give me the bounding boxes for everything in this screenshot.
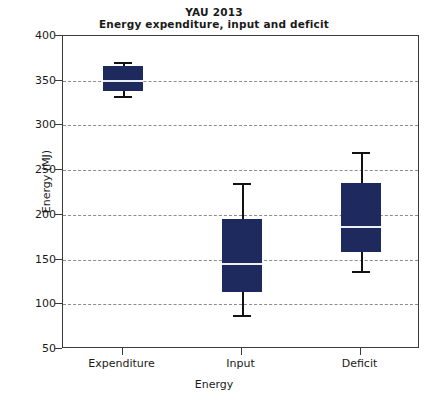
- x-tick-mark: [122, 348, 123, 355]
- y-tick-label: 150: [10, 252, 56, 265]
- y-tick-label: 250: [10, 163, 56, 176]
- y-tick-mark: [55, 259, 62, 260]
- y-tick-mark: [55, 169, 62, 170]
- x-tick-label-expenditure: Expenditure: [62, 357, 182, 370]
- y-tick-mark: [55, 80, 62, 81]
- whisker-cap-upper: [233, 183, 251, 185]
- x-tick-mark: [360, 348, 361, 355]
- chart-subtitle: Energy expenditure, input and deficit: [0, 18, 428, 30]
- boxplot-figure: YAU 2013 Energy expenditure, input and d…: [0, 0, 428, 402]
- y-tick-label: 400: [10, 29, 56, 42]
- y-tick-label: 200: [10, 207, 56, 220]
- y-axis-label: Energy (MJ): [40, 122, 53, 242]
- y-tick-mark: [55, 124, 62, 125]
- y-tick-label: 50: [10, 342, 56, 355]
- median-line: [103, 80, 143, 82]
- whisker-cap-lower: [114, 96, 132, 98]
- y-tick-mark: [55, 35, 62, 36]
- x-tick-label-input: Input: [181, 357, 301, 370]
- y-tick-mark: [55, 214, 62, 215]
- y-tick-label: 350: [10, 73, 56, 86]
- whisker-cap-upper: [352, 152, 370, 154]
- x-tick-label-deficit: Deficit: [300, 357, 420, 370]
- median-line: [222, 263, 262, 265]
- whisker-cap-lower: [233, 315, 251, 317]
- whisker-upper: [242, 183, 244, 220]
- y-tick-label: 300: [10, 118, 56, 131]
- box-iqr-rect: [222, 219, 262, 291]
- whisker-lower: [242, 292, 244, 315]
- whisker-upper: [361, 152, 363, 182]
- plot-area: [62, 35, 419, 348]
- gridline: [63, 125, 418, 126]
- chart-title: YAU 2013: [0, 6, 428, 18]
- y-tick-mark: [55, 348, 62, 349]
- title-block: YAU 2013 Energy expenditure, input and d…: [0, 6, 428, 31]
- gridline: [63, 304, 418, 305]
- whisker-lower: [361, 252, 363, 271]
- x-axis-label: Energy: [0, 378, 428, 391]
- median-line: [341, 226, 381, 228]
- whisker-cap-upper: [114, 62, 132, 64]
- y-tick-mark: [55, 303, 62, 304]
- y-tick-label: 100: [10, 297, 56, 310]
- box-iqr-rect: [341, 183, 381, 253]
- x-tick-mark: [241, 348, 242, 355]
- whisker-cap-lower: [352, 271, 370, 273]
- gridline: [63, 170, 418, 171]
